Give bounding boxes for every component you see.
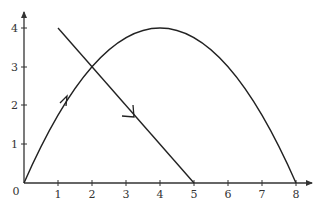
svg-text:7: 7	[259, 188, 266, 201]
svg-text:2: 2	[89, 188, 96, 201]
svg-text:6: 6	[225, 188, 232, 201]
parabola-curve	[24, 28, 296, 183]
straight-line	[58, 28, 194, 183]
y-tick-labels: 1 2 3 4	[11, 22, 18, 151]
svg-text:5: 5	[191, 188, 198, 201]
svg-text:2: 2	[11, 99, 18, 112]
svg-text:3: 3	[11, 61, 18, 74]
svg-text:3: 3	[123, 188, 130, 201]
svg-text:1: 1	[55, 188, 62, 201]
svg-text:4: 4	[11, 22, 18, 35]
svg-text:8: 8	[293, 188, 300, 201]
svg-text:1: 1	[11, 138, 18, 151]
parabola-direction-arrow-icon	[60, 96, 67, 106]
svg-text:4: 4	[157, 188, 164, 201]
x-tick-labels: 1 2 3 4 5 6 7 8	[55, 188, 300, 201]
diagram: 1 2 3 4 5 6 7 8 0 1 2 3 4	[0, 0, 325, 216]
origin-label: 0	[13, 185, 20, 198]
